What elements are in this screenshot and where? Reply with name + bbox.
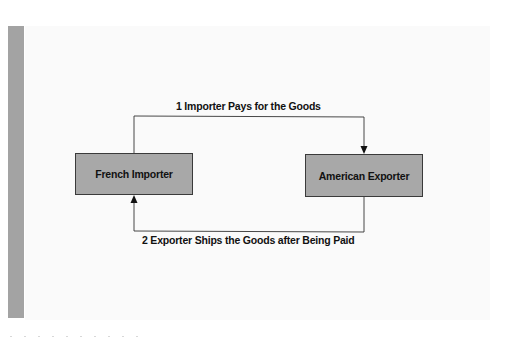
node-french-importer: French Importer bbox=[75, 153, 193, 195]
node-label: French Importer bbox=[95, 168, 173, 180]
edge-label-shipment: 2 Exporter Ships the Goods after Being P… bbox=[142, 234, 355, 246]
node-american-exporter: American Exporter bbox=[305, 154, 423, 197]
side-accent-bar bbox=[8, 26, 24, 318]
node-label: American Exporter bbox=[319, 170, 410, 182]
edge-label-payment: 1 Importer Pays for the Goods bbox=[176, 100, 321, 112]
scan-artifact bbox=[10, 336, 150, 337]
